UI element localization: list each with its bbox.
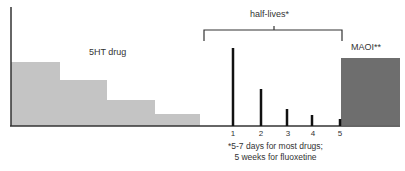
drug-steps: [11, 62, 200, 126]
half-lives-bracket: [204, 26, 342, 41]
half-lives-label: half-lives*: [250, 9, 289, 19]
drug-step-2: [60, 80, 107, 126]
drug-step-4: [155, 114, 200, 126]
drug-label: 5HT drug: [89, 47, 126, 57]
maoi-label: MAOI**: [351, 42, 381, 52]
tick-label-3: 3: [286, 129, 290, 138]
tick-label-1: 1: [231, 129, 235, 138]
drug-step-1: [11, 62, 60, 126]
tick-label-2: 2: [259, 129, 263, 138]
maoi-box: [341, 58, 400, 125]
footnote: *5-7 days for most drugs; 5 weeks for fl…: [228, 141, 323, 163]
diagram-canvas: [0, 0, 405, 171]
footnote-line-1: *5-7 days for most drugs;: [228, 141, 323, 152]
tick-label-4: 4: [311, 129, 315, 138]
tick-label-5: 5: [338, 129, 342, 138]
footnote-line-2: 5 weeks for fluoxetine: [228, 152, 323, 163]
half-life-spikes: [233, 48, 340, 126]
drug-step-3: [107, 100, 155, 126]
